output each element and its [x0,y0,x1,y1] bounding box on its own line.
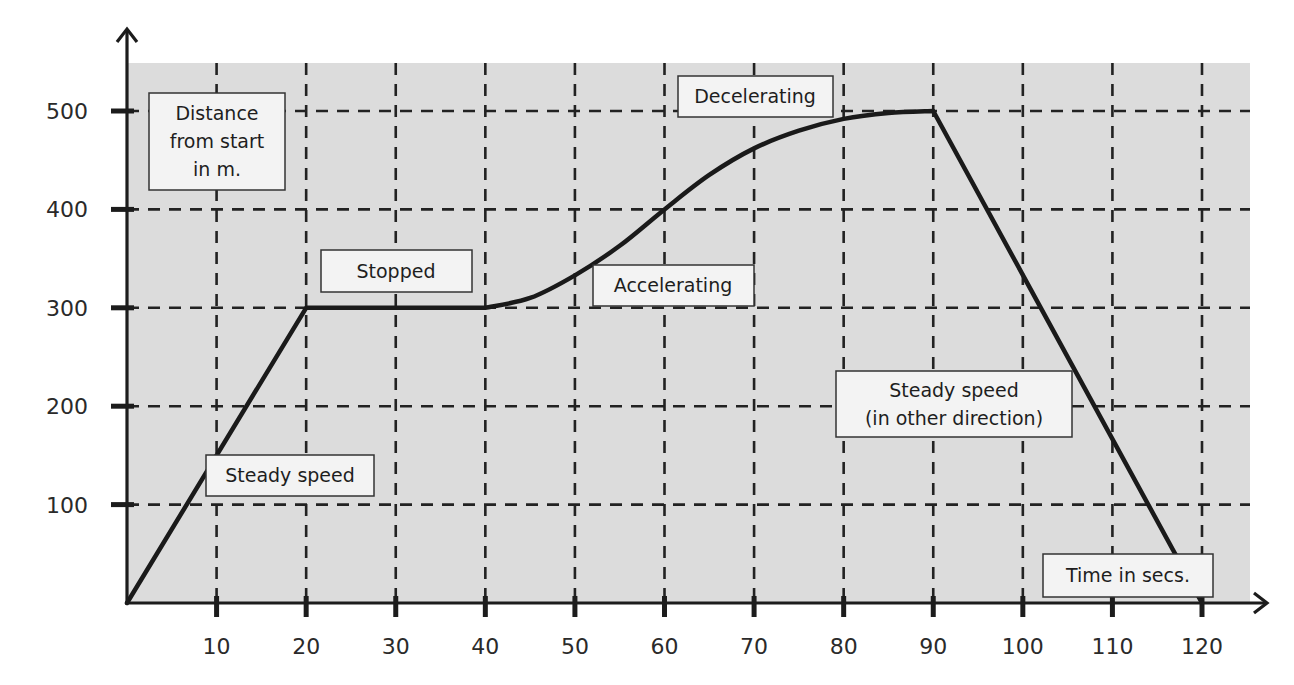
stopped-label: Stopped [356,260,435,282]
y-tick-label: 200 [46,394,88,419]
y-tick-label: 500 [46,99,88,124]
steady-other-label-line2: (in other direction) [865,407,1043,429]
x-tick-label: 90 [919,634,947,659]
x-tick-label: 20 [292,634,320,659]
y-axis-label-box: Distance from start in m. [149,93,285,190]
x-tick-label: 100 [1002,634,1044,659]
x-tick-label: 60 [651,634,679,659]
y-tick-label: 300 [46,296,88,321]
steady-other-label-line1: Steady speed [889,379,1019,401]
accelerating-label-box: Accelerating [593,265,754,306]
distance-time-graph: 1020304050607080901001101201002003004005… [0,0,1294,685]
x-axis-label-box: Time in secs. [1043,554,1213,597]
y-tick-label: 100 [46,493,88,518]
x-tick-label: 40 [471,634,499,659]
x-tick-label: 70 [740,634,768,659]
steady-speed-label-box: Steady speed [206,455,374,496]
accelerating-label: Accelerating [614,274,733,296]
x-tick-label: 30 [382,634,410,659]
stopped-label-box: Stopped [321,250,472,292]
y-tick-label: 400 [46,197,88,222]
steady-speed-label: Steady speed [225,464,355,486]
y-axis-label-line1: Distance [175,102,258,124]
y-axis-label-line3: in m. [193,158,241,180]
steady-speed-other-direction-label-box: Steady speed (in other direction) [836,371,1072,437]
x-axis-label: Time in secs. [1065,564,1190,586]
x-tick-label: 110 [1091,634,1133,659]
y-axis-label-line2: from start [170,130,265,152]
x-tick-label: 50 [561,634,589,659]
decelerating-label-box: Decelerating [678,76,833,117]
plot-background [127,63,1250,603]
x-tick-label: 10 [203,634,231,659]
x-tick-label: 80 [830,634,858,659]
x-tick-label: 120 [1181,634,1223,659]
decelerating-label: Decelerating [694,85,816,107]
